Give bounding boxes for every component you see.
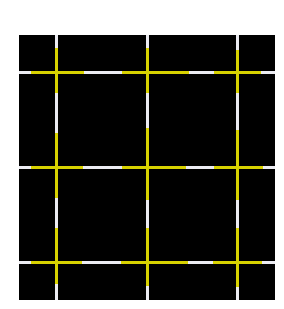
horizontal-line-2-segment-yellow (122, 166, 186, 169)
image-canvas (0, 0, 284, 309)
vertical-line-2-segment-yellow (146, 128, 149, 200)
vertical-line-1-segment-yellow (55, 228, 58, 284)
vertical-line-3-segment-white (236, 35, 239, 50)
horizontal-line-1-segment-white (189, 71, 214, 74)
horizontal-line-1-segment-yellow (122, 71, 189, 74)
vertical-line-1-segment-white (55, 35, 58, 48)
intersection-2-2 (146, 166, 149, 169)
horizontal-line-2-segment-white (186, 166, 214, 169)
intersection-3-1 (236, 71, 239, 74)
horizontal-line-2-segment-white (19, 166, 31, 169)
horizontal-line-1-segment-white (261, 71, 275, 74)
vertical-line-1-segment-white (55, 284, 58, 300)
vertical-line-3-segment-yellow (236, 228, 239, 287)
horizontal-line-3-segment-white (19, 261, 31, 264)
vertical-line-2-segment-white (146, 93, 149, 128)
vertical-line-3-segment-white (236, 287, 239, 300)
vertical-line-1-segment-white (55, 93, 58, 133)
vertical-line-2-segment-white (146, 200, 149, 228)
horizontal-line-3-segment-white (82, 261, 121, 264)
vertical-line-2-segment-yellow (146, 228, 149, 286)
intersection-3-2 (236, 166, 239, 169)
horizontal-line-2-segment-white (263, 166, 275, 169)
vertical-line-1-segment-white (55, 198, 58, 228)
horizontal-line-1-segment-white (19, 71, 31, 74)
intersection-3-3 (236, 261, 239, 264)
horizontal-line-3-segment-white (188, 261, 213, 264)
vertical-line-3-segment-white (236, 93, 239, 130)
horizontal-line-3-segment-white (262, 261, 275, 264)
vertical-line-2-segment-white (146, 286, 149, 300)
intersection-1-3 (55, 261, 58, 264)
horizontal-line-1-segment-white (84, 71, 122, 74)
horizontal-line-2-segment-white (83, 166, 122, 169)
intersection-2-1 (146, 71, 149, 74)
intersection-2-3 (146, 261, 149, 264)
horizontal-line-3-segment-yellow (121, 261, 188, 264)
vertical-line-3-segment-white (236, 200, 239, 228)
vertical-line-2-segment-white (146, 35, 149, 48)
vertical-line-3-segment-yellow (236, 130, 239, 200)
intersection-1-2 (55, 166, 58, 169)
intersection-1-1 (55, 71, 58, 74)
